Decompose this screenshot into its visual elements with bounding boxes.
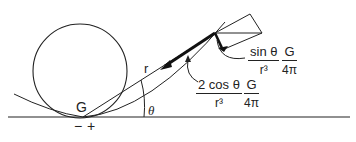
field-vector-arrowhead (160, 60, 172, 70)
radial-factor-num: G (244, 77, 258, 94)
label-minus: − (74, 119, 82, 133)
radial-factor: G 4π (244, 77, 259, 110)
sin-fraction: sin θ r³ (248, 44, 279, 77)
sin-factor-num: G (282, 44, 296, 61)
sin-numerator: sin θ (248, 44, 279, 61)
radial-pointer-arrowhead (185, 55, 191, 62)
label-theta: θ (148, 104, 154, 117)
dipole-field-diagram (0, 0, 356, 142)
sin-denominator: r³ (260, 61, 268, 77)
sin-factor-den: 4π (282, 61, 297, 77)
label-r: r (144, 62, 148, 75)
theta-arc (141, 80, 145, 117)
label-G: G (76, 100, 87, 114)
radial-fraction: 2 cos θ r³ (196, 77, 242, 110)
sin-factor: G 4π (282, 44, 297, 77)
radial-numerator: 2 cos θ (196, 77, 242, 94)
radial-denominator: r³ (215, 94, 223, 110)
radial-factor-den: 4π (244, 94, 259, 110)
label-plus: + (87, 119, 95, 133)
